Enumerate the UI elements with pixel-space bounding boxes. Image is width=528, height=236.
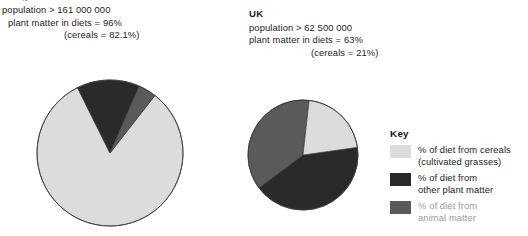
country-b-name: UK [249,8,378,21]
key-item-line2: (cultivated grasses) [418,156,511,168]
country-b-cereals: (cereals = 21%) [249,47,378,60]
country-b-population: population > 62 500 000 [249,22,378,35]
country-b-pie-slice-3 [303,100,357,155]
key-item-line2: other plant matter [418,184,493,196]
country-b-pie-chart [245,97,361,213]
key-item-list: % of diet from cereals(cultivated grasse… [390,144,528,224]
key-item-line1: % of diet from [418,200,477,212]
key-swatch-3 [390,201,411,214]
key-item: % of diet fromother plant matter [390,172,528,195]
key-title: Key [390,128,528,139]
country-b-plant-matter: plant matter in diets = 63% [249,34,378,47]
key-item-label: % of diet fromother plant matter [418,172,493,195]
country-b-caption: UK population > 62 500 000 plant matter … [249,8,378,59]
key-item-label: % of diet from cereals(cultivated grasse… [418,144,511,167]
country-a-cereals: (cereals = 82.1%) [2,29,139,42]
key-swatch-1 [390,145,411,158]
country-a-caption: population > 161 000 000 plant matter in… [2,4,139,42]
key-swatch-2 [390,173,411,186]
country-a-pie-chart [34,77,186,229]
key-item-line2: animal matter [418,212,477,224]
key-item: % of diet fromanimal matter [390,200,528,223]
key-item: % of diet from cereals(cultivated grasse… [390,144,528,167]
country-a-plant-matter: plant matter in diets = 96% [2,17,139,30]
key-panel: Key % of diet from cereals(cultivated gr… [390,128,528,229]
country-a-population: population > 161 000 000 [2,4,139,17]
clipped-top-text: a [22,0,27,1]
key-item-label: % of diet fromanimal matter [418,200,477,223]
key-item-line1: % of diet from [418,172,493,184]
key-item-line1: % of diet from cereals [418,144,511,156]
